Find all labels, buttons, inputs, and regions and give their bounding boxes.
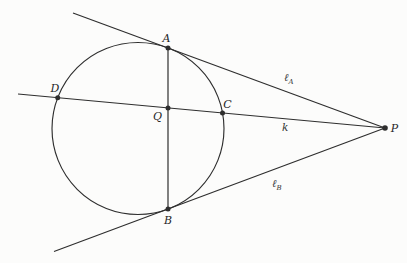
point-dot-Q (166, 106, 171, 111)
geometry-figure: A B C D Q P ℓA k ℓB (0, 0, 407, 263)
paper-background (0, 0, 407, 263)
line-subscript-tangent-B: B (275, 184, 281, 192)
line-label-secant: k (282, 121, 288, 133)
figure-svg: A B C D Q P ℓA k ℓB (0, 0, 407, 263)
point-dot-A (166, 46, 171, 51)
point-dot-P (382, 125, 388, 131)
line-symbol-secant: k (282, 121, 288, 133)
point-dot-D (55, 95, 60, 100)
point-label-A: A (162, 32, 171, 45)
point-label-P: P (390, 122, 399, 135)
point-dot-B (166, 207, 171, 212)
point-dot-C (220, 111, 225, 116)
line-subscript-tangent-A: A (287, 78, 293, 86)
point-label-D: D (50, 82, 60, 95)
point-label-Q: Q (153, 110, 162, 123)
point-label-B: B (163, 214, 172, 227)
point-label-C: C (223, 98, 232, 111)
